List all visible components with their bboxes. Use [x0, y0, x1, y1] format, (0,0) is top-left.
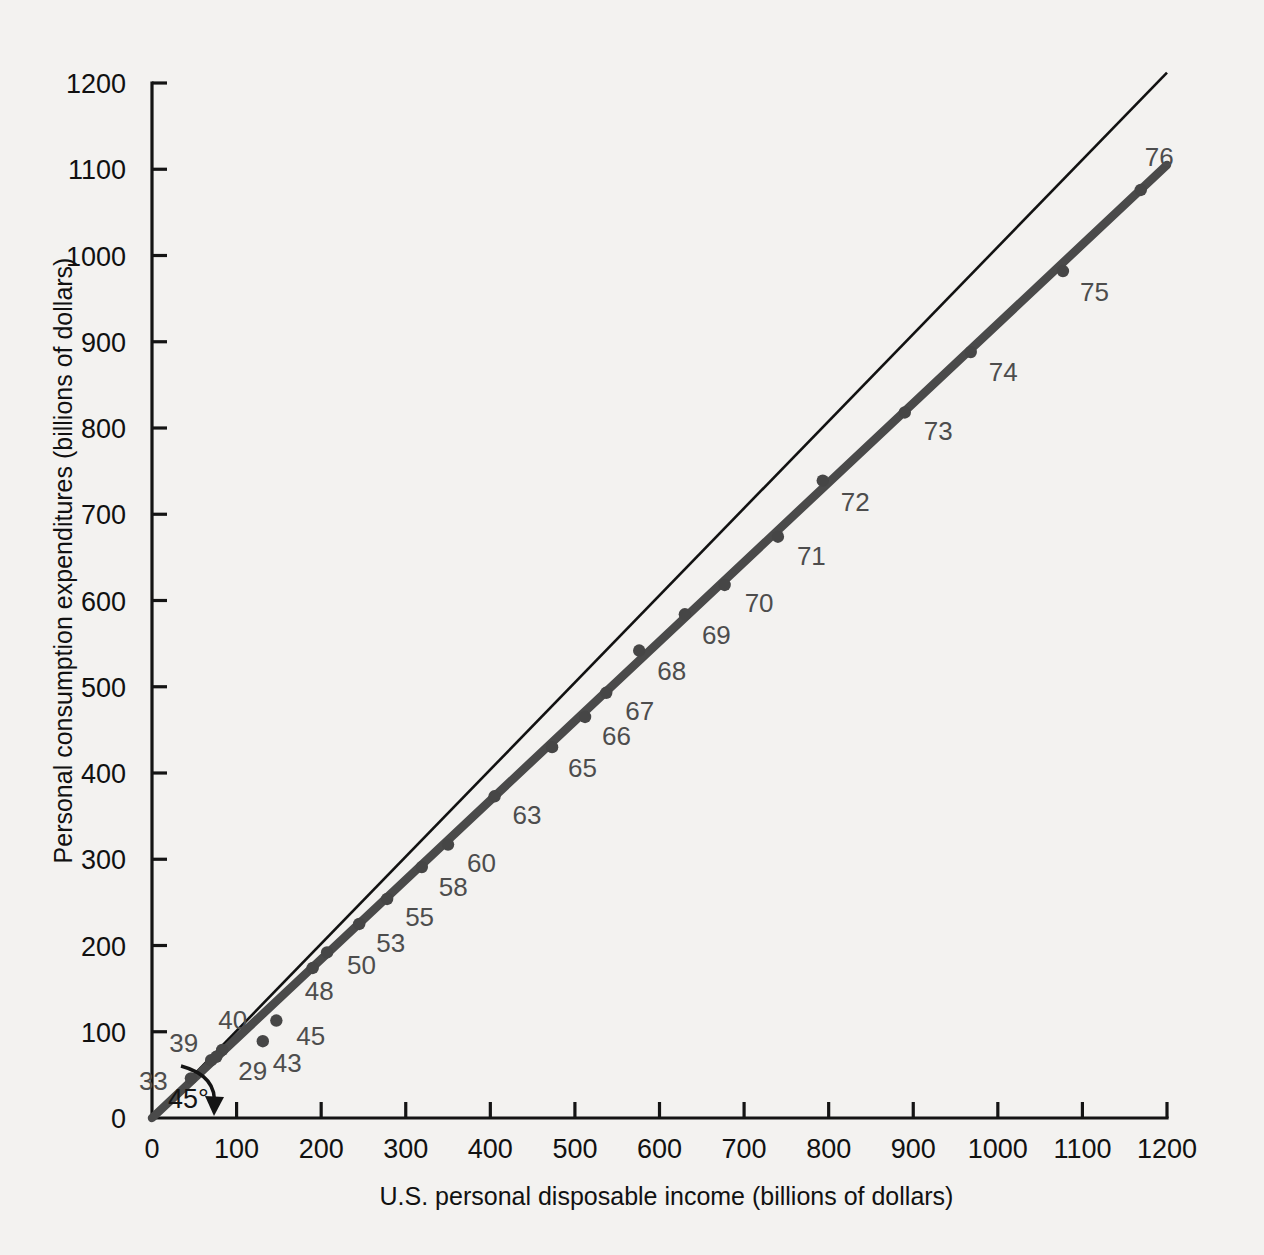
data-point-label-73: 73 [924, 416, 953, 446]
data-point-label-33: 33 [139, 1066, 168, 1096]
data-point-label-75: 75 [1080, 277, 1109, 307]
y-tick-label-700: 700 [81, 500, 126, 530]
data-point-label-71: 71 [797, 541, 826, 571]
x-tick-label-900: 900 [891, 1134, 936, 1164]
x-tick-label-500: 500 [552, 1134, 597, 1164]
y-tick-label-800: 800 [81, 414, 126, 444]
data-point-70[interactable] [718, 579, 730, 591]
data-point-74[interactable] [965, 346, 977, 358]
x-tick-label-700: 700 [722, 1134, 767, 1164]
y-tick-label-400: 400 [81, 759, 126, 789]
data-point-label-68: 68 [657, 656, 686, 686]
45-degree-reference-line [152, 73, 1167, 1118]
x-tick-label-400: 400 [468, 1134, 513, 1164]
data-point-50[interactable] [321, 946, 333, 958]
data-point-75[interactable] [1057, 265, 1069, 277]
data-point-label-39: 39 [169, 1028, 198, 1058]
y-tick-label-1200: 1200 [66, 69, 126, 99]
x-tick-label-200: 200 [299, 1134, 344, 1164]
data-point-label-29: 29 [238, 1056, 267, 1086]
data-point-45[interactable] [270, 1014, 282, 1026]
data-points-layer: 2933394043454850535558606365666768697071… [139, 142, 1174, 1096]
data-point-label-43: 43 [273, 1048, 302, 1078]
data-point-69[interactable] [679, 608, 691, 620]
y-tick-label-1100: 1100 [68, 155, 126, 185]
x-axis-title: U.S. personal disposable income (billion… [380, 1182, 954, 1210]
data-point-label-55: 55 [405, 902, 434, 932]
y-tick-label-300: 300 [81, 845, 126, 875]
x-tick-label-100: 100 [214, 1134, 259, 1164]
data-point-label-70: 70 [745, 588, 774, 618]
data-point-73[interactable] [899, 406, 911, 418]
data-point-label-50: 50 [347, 950, 376, 980]
scatter-plot: 0100200300400500600700800900100011001200… [0, 0, 1264, 1255]
x-tick-label-800: 800 [806, 1134, 851, 1164]
data-point-label-74: 74 [989, 357, 1018, 387]
data-point-66[interactable] [579, 711, 591, 723]
x-tick-label-300: 300 [383, 1134, 428, 1164]
data-point-72[interactable] [817, 474, 829, 486]
data-point-label-67: 67 [625, 696, 654, 726]
data-point-71[interactable] [772, 530, 784, 542]
data-point-33[interactable] [185, 1072, 197, 1084]
data-point-67[interactable] [600, 687, 612, 699]
data-point-40[interactable] [210, 1051, 222, 1063]
angle-annotation: 45° [168, 1066, 224, 1116]
angle-annotation-label: 45° [168, 1084, 209, 1114]
data-point-label-76: 76 [1145, 142, 1174, 172]
data-point-65[interactable] [546, 741, 558, 753]
data-point-68[interactable] [633, 644, 645, 656]
data-point-label-69: 69 [702, 620, 731, 650]
x-tick-label-1200: 1200 [1137, 1134, 1197, 1164]
axes: 0100200300400500600700800900100011001200… [66, 69, 1197, 1164]
y-tick-label-500: 500 [81, 673, 126, 703]
data-point-label-65: 65 [568, 753, 597, 783]
x-tick-label-0: 0 [144, 1134, 159, 1164]
data-point-label-60: 60 [467, 848, 496, 878]
data-point-63[interactable] [488, 790, 500, 802]
data-point-58[interactable] [416, 861, 428, 873]
y-tick-label-200: 200 [81, 932, 126, 962]
y-axis-title: Personal consumption expenditures (billi… [49, 258, 77, 864]
x-tick-label-1100: 1100 [1053, 1134, 1111, 1164]
data-point-label-58: 58 [439, 872, 468, 902]
y-tick-label-600: 600 [81, 587, 126, 617]
y-tick-label-0: 0 [111, 1104, 126, 1134]
y-tick-label-900: 900 [81, 328, 126, 358]
data-point-label-53: 53 [376, 928, 405, 958]
data-point-label-72: 72 [841, 487, 870, 517]
data-point-53[interactable] [353, 918, 365, 930]
data-point-label-48: 48 [305, 976, 334, 1006]
data-point-label-45: 45 [296, 1021, 325, 1051]
x-tick-label-600: 600 [637, 1134, 682, 1164]
data-point-43[interactable] [257, 1035, 269, 1047]
reference-line-45deg [152, 73, 1167, 1118]
data-point-label-63: 63 [513, 800, 542, 830]
data-point-76[interactable] [1135, 184, 1147, 196]
data-point-60[interactable] [442, 838, 454, 850]
x-tick-label-1000: 1000 [968, 1134, 1028, 1164]
data-point-48[interactable] [307, 962, 319, 974]
data-point-label-40: 40 [218, 1005, 247, 1035]
data-point-55[interactable] [381, 893, 393, 905]
y-tick-label-100: 100 [81, 1018, 126, 1048]
chart-page: 0100200300400500600700800900100011001200… [0, 0, 1264, 1255]
